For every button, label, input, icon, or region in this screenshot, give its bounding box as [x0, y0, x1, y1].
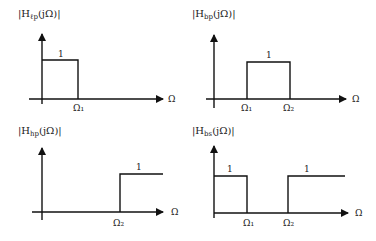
- tick-omega-1: Ω₁: [241, 103, 252, 113]
- panel-title: |Hℓp(jΩ)|: [18, 8, 61, 21]
- axis-label-omega: Ω: [352, 94, 359, 104]
- response-curve-high: [288, 176, 345, 213]
- tick-omega-1: Ω₁: [73, 103, 84, 113]
- tick-omega-2: Ω₂: [113, 218, 124, 228]
- response-curve: [120, 174, 163, 212]
- response-curve-low: [214, 176, 247, 213]
- level-label: 1: [304, 164, 310, 174]
- panel-lowpass: |Hℓp(jΩ)| 1 Ω₁ Ω: [18, 8, 175, 113]
- panel-title: |Hbs(jΩ)|: [192, 125, 235, 138]
- tick-omega-2: Ω₂: [283, 218, 294, 228]
- panel-bandstop: |Hbs(jΩ)| 1 1 Ω₁ Ω₂ Ω: [192, 125, 362, 228]
- axis-label-omega: Ω: [168, 94, 175, 104]
- level-label: 1: [227, 164, 233, 174]
- level-label: 1: [266, 50, 272, 60]
- response-curve: [42, 60, 78, 99]
- panel-highpass: |Hhp(jΩ)| 1 Ω₂ Ω: [18, 125, 178, 228]
- filter-diagram: |Hℓp(jΩ)| 1 Ω₁ Ω |Hbp(jΩ)| 1 Ω₁ Ω₂ Ω |Hh…: [0, 0, 376, 241]
- level-label: 1: [58, 49, 64, 59]
- level-label: 1: [136, 162, 142, 172]
- response-curve: [247, 62, 290, 99]
- axis-label-omega: Ω: [355, 208, 362, 218]
- axis-label-omega: Ω: [171, 207, 178, 217]
- tick-omega-2: Ω₂: [283, 103, 294, 113]
- panel-title: |Hhp(jΩ)|: [18, 125, 62, 138]
- tick-omega-1: Ω₁: [243, 218, 254, 228]
- panel-bandpass: |Hbp(jΩ)| 1 Ω₁ Ω₂ Ω: [192, 8, 359, 113]
- panel-title: |Hbp(jΩ)|: [192, 8, 236, 21]
